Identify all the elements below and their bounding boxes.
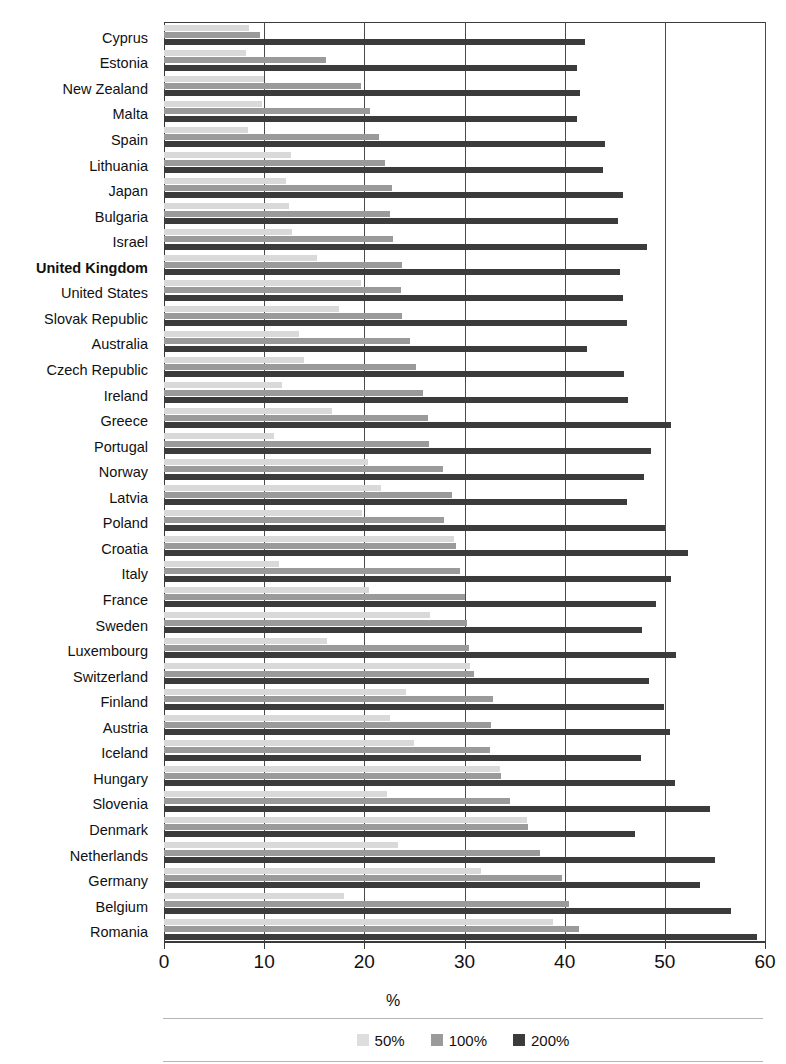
bar-group — [164, 610, 765, 636]
bar-group — [164, 865, 765, 891]
bar-100pct — [164, 645, 469, 651]
bar-100pct — [164, 415, 428, 421]
bar-group — [164, 124, 765, 150]
bar-200pct — [164, 755, 641, 761]
bar-50pct — [164, 101, 262, 107]
category-label: United States — [61, 286, 148, 301]
bar-50pct — [164, 382, 282, 388]
bar-200pct — [164, 448, 651, 454]
bar-50pct — [164, 178, 286, 184]
bar-200pct — [164, 882, 700, 888]
category-label: Spain — [111, 133, 148, 148]
bar-200pct — [164, 218, 618, 224]
legend-item-s100[interactable]: 100% — [431, 1032, 487, 1049]
legend-swatch-icon — [357, 1034, 369, 1046]
bar-100pct — [164, 338, 410, 344]
bar-50pct — [164, 842, 398, 848]
bar-group — [164, 508, 765, 534]
bar-100pct — [164, 773, 501, 779]
category-label: Israel — [113, 235, 148, 250]
bar-100pct — [164, 390, 423, 396]
bar-50pct — [164, 152, 291, 158]
bar-group — [164, 278, 765, 304]
legend-swatch-icon — [431, 1034, 443, 1046]
bar-50pct — [164, 893, 344, 899]
bar-200pct — [164, 244, 647, 250]
bar-100pct — [164, 313, 402, 319]
legend-item-s50[interactable]: 50% — [357, 1032, 405, 1049]
bar-100pct — [164, 32, 260, 38]
bar-group — [164, 175, 765, 201]
bar-50pct — [164, 76, 264, 82]
bar-100pct — [164, 364, 416, 370]
bar-200pct — [164, 550, 688, 556]
bar-group — [164, 916, 765, 942]
legend-label: 50% — [375, 1032, 405, 1049]
bar-200pct — [164, 908, 731, 914]
bar-100pct — [164, 875, 562, 881]
bar-100pct — [164, 568, 460, 574]
x-tick-label-20: 20 — [354, 951, 375, 973]
bar-200pct — [164, 397, 628, 403]
bar-group — [164, 789, 765, 815]
bar-100pct — [164, 747, 490, 753]
category-label: Malta — [113, 107, 148, 122]
bar-100pct — [164, 901, 569, 907]
bar-chart: CyprusEstoniaNew ZealandMaltaSpainLithua… — [0, 0, 786, 1064]
x-tick-label-60: 60 — [754, 951, 775, 973]
bar-50pct — [164, 868, 481, 874]
bar-50pct — [164, 587, 369, 593]
category-label: Germany — [88, 874, 148, 889]
category-label: United Kingdom — [36, 261, 148, 276]
bar-100pct — [164, 83, 361, 89]
bar-50pct — [164, 357, 304, 363]
bar-200pct — [164, 525, 665, 531]
legend-label: 100% — [449, 1032, 487, 1049]
category-label: Hungary — [93, 772, 148, 787]
bar-50pct — [164, 433, 274, 439]
bar-200pct — [164, 192, 623, 198]
x-tick-mark-0 — [164, 941, 165, 949]
bar-group — [164, 73, 765, 99]
bar-50pct — [164, 25, 249, 31]
bar-group — [164, 456, 765, 482]
bar-200pct — [164, 806, 710, 812]
bar-100pct — [164, 108, 370, 114]
plot-area — [164, 22, 765, 942]
category-label: Switzerland — [73, 670, 148, 685]
bar-group — [164, 814, 765, 840]
bar-200pct — [164, 627, 642, 633]
bar-200pct — [164, 704, 664, 710]
legend-item-s200[interactable]: 200% — [513, 1032, 569, 1049]
bar-group — [164, 22, 765, 48]
bar-group — [164, 738, 765, 764]
bar-200pct — [164, 167, 603, 173]
bar-100pct — [164, 185, 392, 191]
x-tick-label-0: 0 — [159, 951, 170, 973]
bar-50pct — [164, 561, 279, 567]
bar-200pct — [164, 422, 671, 428]
bar-100pct — [164, 671, 474, 677]
bar-100pct — [164, 926, 579, 932]
x-tick-label-30: 30 — [454, 951, 475, 973]
category-label: Czech Republic — [46, 363, 148, 378]
category-label: Slovak Republic — [44, 312, 148, 327]
gridline-60 — [765, 22, 766, 942]
category-label: Croatia — [101, 542, 148, 557]
bar-50pct — [164, 510, 362, 516]
legend-label: 200% — [531, 1032, 569, 1049]
bar-200pct — [164, 371, 624, 377]
bar-200pct — [164, 65, 577, 71]
category-label: Austria — [103, 721, 148, 736]
bar-50pct — [164, 919, 553, 925]
bar-200pct — [164, 39, 585, 45]
bar-50pct — [164, 255, 317, 261]
category-label: Japan — [108, 184, 148, 199]
bar-200pct — [164, 141, 605, 147]
chart-page: CyprusEstoniaNew ZealandMaltaSpainLithua… — [0, 0, 786, 1064]
category-label: Poland — [103, 516, 148, 531]
bar-group — [164, 329, 765, 355]
category-label: Luxembourg — [67, 644, 148, 659]
bar-200pct — [164, 934, 757, 940]
bar-group — [164, 431, 765, 457]
